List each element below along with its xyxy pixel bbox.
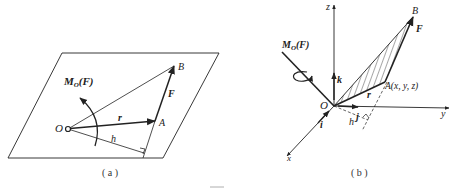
arm-h-line [68,129,144,153]
label-x: x [286,153,291,163]
moment-arc [80,98,97,146]
label-k: k [337,74,342,85]
label-O: O [320,99,328,111]
label-i: i [320,119,323,130]
right-angle-mark [363,114,369,118]
moment-label: MO(F) [63,75,94,89]
moment-vector-axis [282,52,334,106]
moment-diagram: MO(F) O B F r A h ( a ) z y x k [0,0,454,189]
label-A: A(x, y, z) [384,81,418,92]
label-B: B [178,61,184,72]
label-h: h [111,133,116,144]
label-r: r [367,89,371,100]
moment-label: MO(F) [281,39,309,52]
label-r: r [118,112,122,123]
label-O: O [55,122,63,134]
unit-vector-j [338,106,358,107]
caption-b: ( b ) [351,167,368,179]
label-h: h [349,116,354,127]
label-F: F [415,23,423,34]
line-OB [334,17,413,106]
label-F: F [167,88,175,99]
label-j: j [354,111,359,122]
panel-b: z y x k j i O A(x, y, z) B F r h MO(F) (… [281,1,449,179]
caption-a: ( a ) [102,167,118,179]
label-y: y [440,108,446,119]
origin-point [66,127,71,132]
force-line-extension [143,121,155,158]
label-z: z [325,1,330,12]
label-A: A [158,117,166,128]
panel-a: MO(F) O B F r A h ( a ) [8,53,219,179]
label-B: B [412,5,418,16]
position-vector-r [70,121,155,129]
